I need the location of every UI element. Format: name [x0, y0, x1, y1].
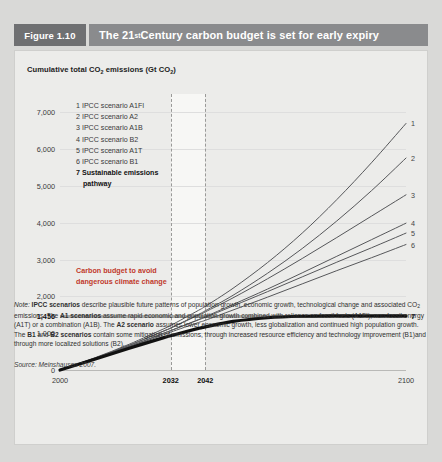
annotation-line-1: Carbon budget to avoid [76, 266, 157, 275]
figure-header: Figure 1.10 The 21st Century carbon budg… [14, 24, 428, 46]
note-label: Note: [14, 301, 30, 308]
y-axis-tick-label: 5,000 [37, 182, 55, 191]
figure-title: The 21st Century carbon budget is set fo… [89, 24, 428, 46]
x-axis-tick-label: 2000 [52, 376, 68, 385]
note-text-1: describe plausible future patterns of po… [80, 301, 417, 308]
legend-item-7-line1: 7 Sustainable emissions [76, 169, 158, 177]
y-axis-tick-label: 7,000 [37, 108, 55, 117]
note-bold-5: B2 scenarios [50, 331, 91, 338]
gridline [60, 370, 406, 371]
y-axis-title-post: ) [173, 65, 176, 74]
series-end-label: 3 [411, 190, 415, 199]
figure-note: Note: IPCC scenarios describe plausible … [14, 300, 429, 349]
y-axis-title-sub1: 2 [101, 69, 104, 75]
figure-number-tag: Figure 1.10 [14, 24, 86, 46]
series-end-label: 6 [411, 240, 415, 249]
chart-legend: 1 IPCC scenario A1FI 2 IPCC scenario A2 … [76, 101, 158, 191]
y-axis-title-mid: emissions (Gt CO [104, 65, 171, 74]
note-bold-3: A2 scenario [117, 321, 154, 328]
annotation-line-2: dangerous climate change [76, 277, 167, 286]
y-axis-tick-label: 3,000 [37, 255, 55, 264]
y-axis-title-sub2: 2 [170, 69, 173, 75]
figure-title-post: Century carbon budget is set for early e… [140, 29, 379, 41]
source-text: Meinshausen 2007. [37, 361, 96, 368]
legend-item-5: 5 IPCC scenario A1T [76, 146, 158, 157]
series-end-label: 4 [411, 219, 415, 228]
note-bold-4: B1 [27, 331, 35, 338]
y-axis-title-pre: Cumulative total CO [27, 65, 101, 74]
note-text-5: and [36, 331, 51, 338]
y-axis-tick-label: 4,000 [37, 218, 55, 227]
chart-panel: Cumulative total CO2 emissions (Gt CO2) … [14, 50, 428, 445]
x-axis-tick-label: 2100 [398, 376, 414, 385]
legend-item-7: 7 Sustainable emissionspathway [76, 168, 158, 190]
x-axis-tick-label: 2032 [163, 376, 179, 385]
legend-item-2: 2 IPCC scenario A2 [76, 112, 158, 123]
carbon-budget-annotation: Carbon budget to avoid dangerous climate… [76, 266, 167, 287]
figure-container: Figure 1.10 The 21st Century carbon budg… [0, 0, 442, 462]
legend-item-1: 1 IPCC scenario A1FI [76, 101, 158, 112]
series-end-label: 5 [411, 229, 415, 238]
series-end-label: 2 [411, 154, 415, 163]
y-axis-tick-label: 6,000 [37, 145, 55, 154]
legend-item-7-line2: pathway [76, 179, 158, 190]
legend-item-6: 6 IPCC scenario B1 [76, 157, 158, 168]
legend-item-3: 3 IPCC scenario A1B [76, 123, 158, 134]
note-text-2: emissions. The [14, 312, 60, 319]
note-bold-2: A1 scenarios [60, 312, 101, 319]
source-label: Source: [14, 361, 37, 368]
note-sub-1: 2 [417, 303, 420, 309]
figure-source: Source: Meinshausen 2007. [14, 361, 96, 368]
note-bold-1: IPCC scenarios [32, 301, 80, 308]
y-axis-title: Cumulative total CO2 emissions (Gt CO2) [27, 65, 176, 74]
series-end-label: 1 [411, 119, 415, 128]
legend-item-4: 4 IPCC scenario B2 [76, 135, 158, 146]
x-axis-tick-label: 2042 [197, 376, 213, 385]
figure-title-pre: The 21 [99, 29, 134, 41]
